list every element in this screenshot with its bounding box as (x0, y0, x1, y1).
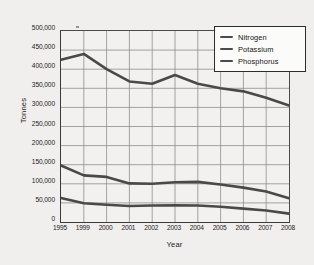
y-axis-tick-label: 500,000 (32, 24, 55, 31)
chart-legend: Nitrogen Potassium Phosphorus (214, 26, 306, 72)
x-axis-tick-label: 2003 (167, 224, 181, 231)
legend-line-swatch-icon (220, 36, 233, 39)
legend-line-swatch-icon (220, 60, 233, 63)
x-axis-tick-label: 1999 (76, 224, 90, 231)
x-axis-tick-labels: 1995199920002001200220032004200520062007… (60, 224, 289, 236)
line-chart: Tonnes 050,000100,000150,000200,000250,0… (0, 0, 314, 265)
y-axis-tick-label: 300,000 (32, 100, 55, 107)
x-axis-tick-label: 1995 (53, 224, 67, 231)
series-line-phosphorus (61, 198, 289, 214)
legend-label: Potassium (238, 45, 273, 54)
x-axis-tick-label: 2000 (99, 224, 113, 231)
x-axis-title: Year (60, 240, 289, 249)
y-axis-tick-mark (76, 27, 79, 28)
x-axis-tick-label: 2001 (121, 224, 135, 231)
y-axis-tick-label: 200,000 (32, 138, 55, 145)
legend-label: Nitrogen (238, 33, 267, 42)
series-line-potassium (61, 165, 289, 198)
x-axis-tick-label: 2004 (190, 224, 204, 231)
y-axis-tick-label: 50,000 (35, 195, 55, 202)
legend-label: Phosphorus (238, 57, 278, 66)
y-axis-tick-labels: 050,000100,000150,000200,000250,000300,0… (18, 27, 58, 221)
x-axis-tick-label: 2008 (281, 224, 295, 231)
x-axis-tick-label: 2005 (213, 224, 227, 231)
x-axis-tick-label: 2007 (258, 224, 272, 231)
y-axis-tick-label: 0 (51, 215, 55, 222)
legend-line-swatch-icon (220, 48, 233, 51)
legend-item-nitrogen[interactable]: Nitrogen (220, 31, 301, 43)
y-axis-tick-label: 150,000 (32, 157, 55, 164)
y-axis-tick-label: 350,000 (32, 81, 55, 88)
y-axis-tick-label: 450,000 (32, 43, 55, 50)
x-axis-tick-label: 2002 (144, 224, 158, 231)
legend-item-phosphorus[interactable]: Phosphorus (220, 55, 301, 67)
y-axis-tick-label: 250,000 (32, 119, 55, 126)
legend-item-potassium[interactable]: Potassium (220, 43, 301, 55)
y-axis-tick-label: 100,000 (32, 176, 55, 183)
y-axis-tick-label: 400,000 (32, 62, 55, 69)
x-axis-tick-label: 2006 (235, 224, 249, 231)
